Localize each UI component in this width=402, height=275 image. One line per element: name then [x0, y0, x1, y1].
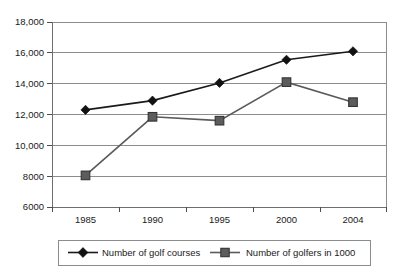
- y-axis-label-12000: 12,000: [15, 109, 44, 120]
- y-axis-label-14000: 14,000: [15, 78, 44, 89]
- y-axis-label-16000: 16,000: [15, 47, 44, 58]
- x-axis-labels: 1985 1990 1995 2000 2004: [75, 214, 364, 225]
- y-axis-label-6000: 6000: [23, 201, 44, 212]
- y-axis-tickmarks: [47, 22, 52, 207]
- y-axis-labels: 18,000 16,000 14,000 12,000 10,000 8000 …: [15, 16, 44, 212]
- x-axis-label-1985: 1985: [75, 214, 96, 225]
- line-chart: 18,000 16,000 14,000 12,000 10,000 8000 …: [0, 0, 402, 275]
- data-point-marker: [81, 171, 90, 180]
- x-axis-label-1990: 1990: [142, 214, 163, 225]
- legend-label-golf-courses: Number of golf courses: [102, 247, 200, 258]
- y-axis-label-8000: 8000: [23, 171, 44, 182]
- x-axis-tickmarks: [52, 207, 386, 212]
- chart-canvas: 18,000 16,000 14,000 12,000 10,000 8000 …: [0, 0, 402, 275]
- x-axis-label-2000: 2000: [276, 214, 297, 225]
- x-axis-label-1995: 1995: [209, 214, 230, 225]
- data-point-marker: [282, 78, 291, 87]
- x-axis-label-2004: 2004: [342, 214, 363, 225]
- data-point-marker: [349, 98, 358, 107]
- data-point-marker: [215, 116, 224, 125]
- y-axis-label-10000: 10,000: [15, 140, 44, 151]
- legend-label-golfers: Number of golfers in 1000: [246, 247, 355, 258]
- data-point-marker: [148, 113, 157, 122]
- y-axis-label-18000: 18,000: [15, 16, 44, 27]
- square-marker-icon: [221, 248, 229, 256]
- chart-legend: Number of golf courses Number of golfers…: [58, 240, 370, 265]
